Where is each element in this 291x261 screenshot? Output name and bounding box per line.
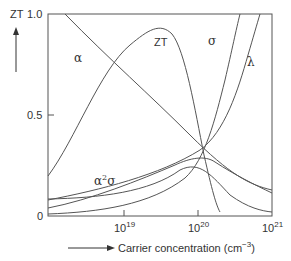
curve-baseline <box>48 167 272 212</box>
label-sigma: σ <box>208 34 216 48</box>
x-tick-label-1e21: 1021 <box>262 220 284 234</box>
y-tick-label-zero: 0 <box>37 210 43 222</box>
y-tick-label-top: 1.0 <box>27 8 42 20</box>
y-axis-arrow-icon <box>13 27 19 72</box>
y-tick-label-mid: 0.5 <box>27 109 42 121</box>
x-tick-label-1e19: 1019 <box>114 220 136 234</box>
label-alpha: α <box>74 51 82 65</box>
x-axis-title: Carrier concentration (cm−3) <box>118 240 255 254</box>
label-power-factor: α2σ <box>94 173 115 188</box>
label-lambda: λ <box>247 55 255 69</box>
x-axis-arrow-icon <box>68 245 115 251</box>
curve-alpha <box>65 14 272 190</box>
chart: ZT 1.0 0.5 0 1019 1020 1021 Carrier conc… <box>0 0 291 261</box>
x-tick-label-1e20: 1020 <box>188 220 210 234</box>
label-zt: ZT <box>154 36 168 48</box>
y-axis-title: ZT <box>10 8 24 20</box>
